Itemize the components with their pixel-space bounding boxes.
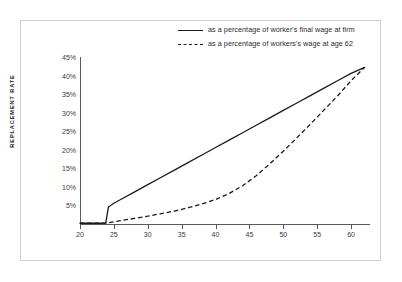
x-axis-tick-label: 35 — [170, 231, 194, 238]
x-axis-tick-label: 50 — [271, 231, 295, 238]
x-axis-tick-label: 30 — [136, 231, 160, 238]
y-axis-tick-label: 30% — [52, 109, 76, 116]
y-axis-tick-label: 10% — [52, 183, 76, 190]
y-axis-tick-label: 20% — [52, 146, 76, 153]
y-axis-tick-label: 45% — [52, 54, 76, 61]
legend-solid-line-icon — [178, 25, 203, 35]
x-axis-tick-mark — [80, 225, 81, 229]
y-axis-tick-label: 5% — [52, 202, 76, 209]
legend-dashed-line-icon — [178, 39, 203, 49]
y-axis-tick-label: 35% — [52, 91, 76, 98]
x-axis-tick-label: 40 — [204, 231, 228, 238]
x-axis-tick-mark — [182, 225, 183, 229]
legend-item-solid: as a percentage of worker's final wage a… — [178, 23, 393, 36]
x-axis-tick-mark — [148, 225, 149, 229]
y-axis-title: REPLACEMENT RATE — [9, 66, 15, 156]
x-axis-tick-label: 20 — [68, 231, 92, 238]
legend-item-label: as a percentage of worker's final wage a… — [208, 25, 355, 34]
y-axis-tick-label: 40% — [52, 72, 76, 79]
x-axis-tick-label: 60 — [339, 231, 363, 238]
x-axis-tick-mark — [114, 225, 115, 229]
x-axis-tick-mark — [317, 225, 318, 229]
legend-item-dashed: as a percentage of workers's wage at age… — [178, 37, 393, 50]
x-axis-tick-label: 25 — [102, 231, 126, 238]
x-axis-tick-mark — [351, 225, 352, 229]
legend-item-label: as a percentage of workers's wage at age… — [208, 39, 353, 48]
y-axis-line — [80, 57, 81, 224]
x-axis-line — [80, 224, 370, 225]
x-axis-tick-label: 55 — [305, 231, 329, 238]
y-axis-tick-label: 15% — [52, 165, 76, 172]
x-axis-tick-mark — [216, 225, 217, 229]
chart-legend: as a percentage of worker's final wage a… — [178, 23, 393, 51]
chart-figure: as a percentage of worker's final wage a… — [0, 0, 402, 282]
x-axis-tick-mark — [283, 225, 284, 229]
y-axis-tick-labels: 5%10%15%20%25%30%35%40%45% — [52, 57, 76, 224]
y-axis-tick-label: 25% — [52, 128, 76, 135]
x-axis-tick-mark — [249, 225, 250, 229]
x-axis-tick-label: 45 — [237, 231, 261, 238]
x-axis-tick-marks — [80, 225, 370, 230]
x-axis-tick-labels: 202530354045505560 — [80, 231, 370, 243]
